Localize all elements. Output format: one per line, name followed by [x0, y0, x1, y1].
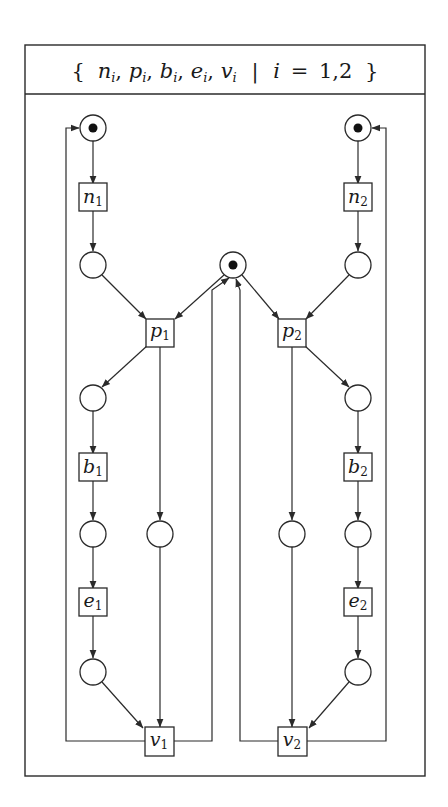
transition-p1[interactable]: p1 — [146, 319, 174, 347]
transition-b1[interactable]: b1 — [79, 453, 107, 481]
places — [80, 115, 371, 685]
header-set-expression: { ni, pi, bi, ei, vi | i = 1,2 } — [72, 59, 379, 87]
place-right-after-e2[interactable] — [345, 659, 371, 685]
token-icon — [89, 124, 98, 133]
place-left-after-n1[interactable] — [80, 252, 106, 278]
place-right-mid[interactable] — [279, 521, 305, 547]
place-right-after-p2[interactable] — [345, 385, 371, 411]
transition-v2[interactable]: v2 — [278, 727, 307, 756]
transition-p2[interactable]: p2 — [278, 319, 306, 347]
place-left-after-e1[interactable] — [80, 659, 106, 685]
arc-v2-to-mutex — [236, 279, 278, 741]
arc-v2-to-top-right — [306, 128, 386, 741]
place-left-mid[interactable] — [147, 521, 173, 547]
arc-place-to-p1 — [102, 275, 146, 319]
arc-place-to-v1 — [102, 682, 143, 728]
arc-p2-to-place — [304, 345, 349, 387]
transition-e2[interactable]: e2 — [344, 588, 372, 616]
arc-mutex-to-p1 — [175, 275, 224, 319]
place-right-after-b2[interactable] — [345, 521, 371, 547]
arc-place-to-p2 — [306, 275, 349, 319]
token-icon — [229, 261, 238, 270]
petri-net-diagram: { ni, pi, bi, ei, vi | i = 1,2 } — [0, 0, 448, 807]
arc-v1-to-top-left — [66, 128, 145, 741]
arc-mutex-to-p2 — [242, 275, 279, 319]
transition-e1[interactable]: e1 — [79, 588, 107, 616]
place-right-after-n2[interactable] — [345, 252, 371, 278]
transition-b2[interactable]: b2 — [344, 453, 372, 481]
arc-p1-to-place — [102, 345, 148, 387]
token-icon — [354, 124, 363, 133]
place-left-after-p1[interactable] — [80, 385, 106, 411]
transition-v1[interactable]: v1 — [145, 727, 174, 756]
place-left-after-b1[interactable] — [80, 521, 106, 547]
arc-v1-to-mutex — [174, 278, 229, 741]
transition-n1[interactable]: n1 — [79, 183, 107, 211]
arcs — [66, 128, 386, 741]
arc-place-to-v2 — [309, 682, 349, 728]
transition-n2[interactable]: n2 — [344, 183, 372, 211]
